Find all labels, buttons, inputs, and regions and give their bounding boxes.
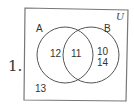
region-b-only-2: 14: [97, 57, 109, 68]
set-b-label: B: [104, 23, 111, 34]
region-outside: 13: [35, 83, 47, 94]
set-a-label: A: [36, 23, 43, 34]
universe-label: U: [116, 10, 125, 22]
region-a-only: 12: [50, 48, 62, 59]
region-b-only-1: 10: [97, 46, 109, 57]
venn-diagram: U A B 12 11 10 14 13: [0, 0, 134, 110]
set-a-circle: [37, 27, 93, 83]
region-intersection: 11: [71, 48, 82, 59]
